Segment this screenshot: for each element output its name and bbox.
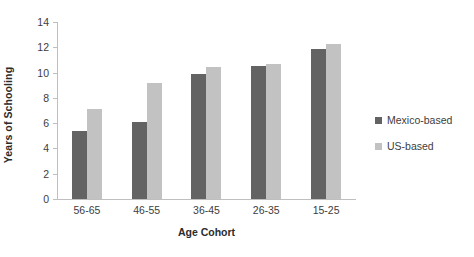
plot-area: 02468101214 56-6546-5536-4526-3515-25	[57, 22, 356, 199]
bar	[191, 74, 206, 199]
legend-swatch-icon	[375, 143, 382, 150]
x-tick-label: 36-45	[177, 204, 237, 216]
legend-label: US-based	[387, 140, 434, 152]
bar-chart-figure: Years of Schooling 02468101214 56-6546-5…	[0, 0, 474, 257]
bar-group	[177, 22, 237, 199]
bar	[311, 49, 326, 199]
x-tick-label: 26-35	[236, 204, 296, 216]
legend-label: Mexico-based	[387, 114, 452, 126]
bar-group	[57, 22, 117, 199]
y-tick-label: 10	[37, 67, 49, 78]
bar	[206, 67, 221, 199]
y-tick-label: 14	[37, 17, 49, 28]
y-axis-title: Years of Schooling	[2, 40, 16, 190]
bar-group	[296, 22, 356, 199]
bar	[87, 109, 102, 199]
y-tick-label: 0	[43, 194, 49, 205]
legend-item[interactable]: Mexico-based	[375, 114, 452, 126]
y-tick-label: 4	[43, 143, 49, 154]
legend-item[interactable]: US-based	[375, 140, 452, 152]
y-tick-label: 8	[43, 93, 49, 104]
y-tick-label: 12	[37, 42, 49, 53]
bar-group	[236, 22, 296, 199]
x-tick-label: 56-65	[57, 204, 117, 216]
bar	[266, 64, 281, 199]
y-tick-label: 6	[43, 118, 49, 129]
bar	[326, 44, 341, 200]
x-tick-label: 15-25	[296, 204, 356, 216]
legend-swatch-icon	[375, 117, 382, 124]
x-axis-title: Age Cohort	[57, 226, 356, 238]
x-axis-line	[57, 199, 356, 200]
bar	[72, 131, 87, 199]
bar	[251, 66, 266, 199]
bar-groups	[57, 22, 356, 199]
bar	[147, 83, 162, 199]
y-tick-label: 2	[43, 168, 49, 179]
bar-group	[117, 22, 177, 199]
x-tick-label: 46-55	[117, 204, 177, 216]
y-tick-mark	[53, 199, 57, 200]
chart-legend: Mexico-basedUS-based	[375, 114, 452, 166]
bar	[132, 122, 147, 199]
